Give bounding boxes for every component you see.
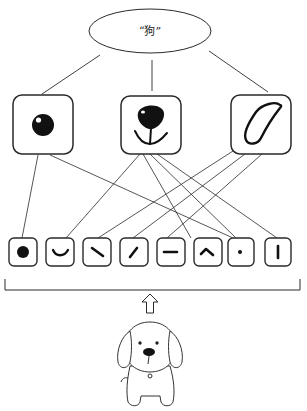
concept-node: “狗” xyxy=(89,9,211,53)
eye-icon xyxy=(32,114,54,136)
feature-box-horizontal xyxy=(157,238,185,266)
feature-row xyxy=(9,238,291,266)
feature-hierarchy-diagram: “狗” xyxy=(0,0,307,411)
filled-dot-icon xyxy=(17,246,29,258)
feature-box-diag-up xyxy=(120,238,148,266)
concept-links xyxy=(42,51,268,94)
small-dot-icon xyxy=(238,250,242,254)
feature-box-caret xyxy=(194,238,222,266)
part-box-ear xyxy=(231,95,291,154)
part-feature-links xyxy=(22,151,277,238)
feature-box-dot-small xyxy=(228,238,254,266)
grouping-bracket xyxy=(5,279,300,290)
feature-box-vertical xyxy=(265,238,291,266)
cartoon-dog-icon xyxy=(118,322,183,406)
feature-box-dot-large xyxy=(9,238,37,266)
feature-box-diag-down xyxy=(83,238,111,266)
feature-box-curve xyxy=(46,238,74,266)
concept-label: “狗” xyxy=(139,25,161,38)
part-box-eye xyxy=(13,95,73,154)
part-box-nose xyxy=(121,96,181,154)
hollow-up-arrow-icon xyxy=(142,294,158,313)
